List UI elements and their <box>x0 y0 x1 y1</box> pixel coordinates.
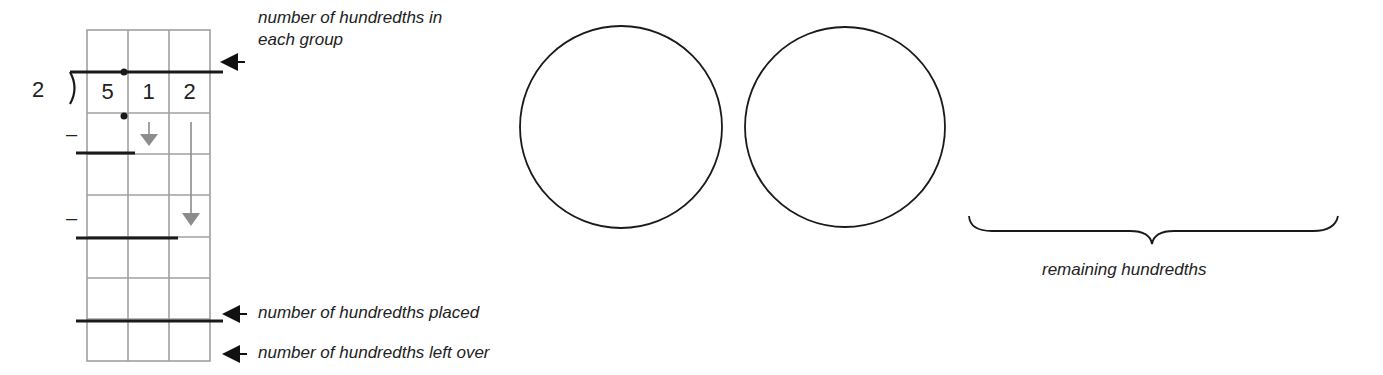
dividend-digit-ones: 5 <box>87 80 128 104</box>
arrow-left-icon <box>222 305 247 323</box>
arrow-left-icon <box>220 53 245 71</box>
label-hundredths-left-over: number of hundredths left over <box>258 343 490 363</box>
decimal-point-dividend <box>121 113 128 120</box>
divisor: 2 <box>32 78 44 102</box>
dividend-digit-tenths: 1 <box>128 80 169 104</box>
decimal-point-quotient <box>121 69 128 76</box>
label-hundredths-each-group-line2: each group <box>258 30 343 50</box>
label-hundredths-placed: number of hundredths placed <box>258 303 479 323</box>
curly-brace-icon <box>969 216 1338 244</box>
label-hundredths-each-group-line1: number of hundredths in <box>258 8 442 28</box>
minus-sign-1: – <box>66 124 77 144</box>
arrow-left-icon <box>222 345 247 363</box>
group-circle-2 <box>745 27 945 227</box>
bring-down-arrow-icon <box>140 122 158 146</box>
dividend-digit-hundredths: 2 <box>169 80 210 104</box>
minus-sign-2: – <box>66 208 77 228</box>
bring-down-arrow-long-icon <box>182 122 200 226</box>
diagram-canvas <box>0 0 1383 375</box>
label-remaining-hundredths: remaining hundredths <box>1042 260 1206 280</box>
group-circle-1 <box>520 26 722 228</box>
